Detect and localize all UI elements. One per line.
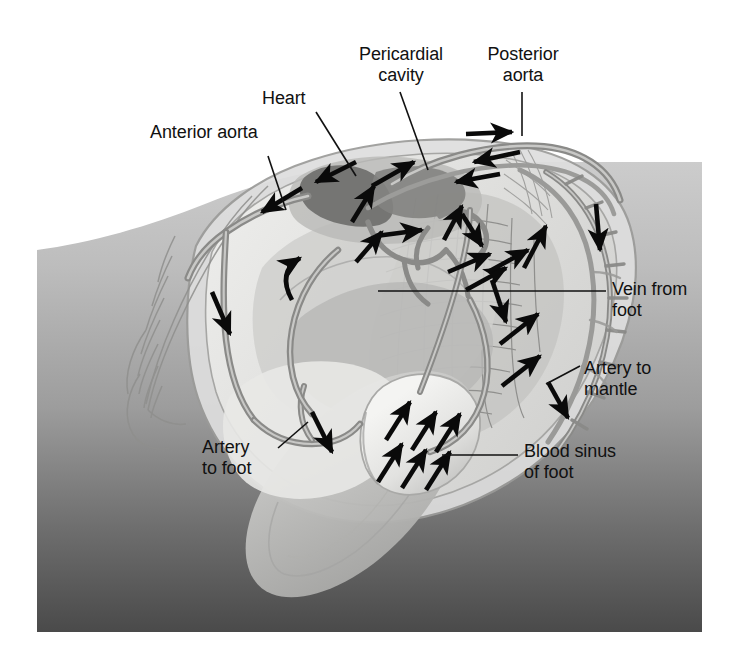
label-posterior-aorta: Posterior aorta bbox=[462, 44, 584, 86]
label-anterior-aorta: Anterior aorta bbox=[150, 122, 330, 143]
diagram-artwork bbox=[0, 0, 732, 660]
arrow-post-aorta-right bbox=[466, 132, 512, 134]
label-artery-to-mantle: Artery to mantle bbox=[584, 358, 712, 400]
label-blood-sinus-of-foot: Blood sinus of foot bbox=[524, 441, 674, 483]
label-vein-from-foot: Vein from foot bbox=[612, 279, 730, 321]
label-artery-to-foot: Artery to foot bbox=[202, 437, 312, 479]
bivalve-circulation-figure: Anterior aorta Heart Pericardial cavity … bbox=[0, 0, 732, 660]
label-pericardial-cavity: Pericardial cavity bbox=[331, 44, 471, 86]
label-heart: Heart bbox=[262, 88, 352, 109]
